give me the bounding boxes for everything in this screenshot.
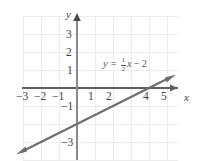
equation-lhs: y (103, 58, 108, 69)
equation-variable: x (127, 58, 132, 69)
fraction-numerator: 1 (121, 57, 127, 64)
x-tick-label-neg2: −2 (34, 91, 46, 103)
x-tick-label-1: 1 (88, 91, 94, 103)
x-axis-label: x (184, 92, 189, 103)
x-axis-arrowhead (170, 85, 178, 92)
y-tick-label-3: 3 (66, 29, 72, 41)
coordinate-graph-figure: y x −3 −2 −1 1 2 4 5 3 2 1 −1 −3 y=12x−2 (0, 0, 200, 161)
fraction-denominator: 2 (121, 66, 127, 73)
x-tick-label-2: 2 (106, 91, 112, 103)
y-axis-arrowhead (73, 13, 81, 21)
equation-label: y=12x−2 (103, 57, 147, 73)
equation-equals: = (111, 58, 117, 69)
y-axis-label: y (66, 9, 71, 20)
y-tick-label-neg1: −1 (61, 101, 73, 113)
x-tick-label-neg3: −3 (16, 91, 28, 103)
line-arrowhead-lower-left (16, 147, 27, 155)
equation-minus: − (134, 58, 140, 69)
x-tick-label-5: 5 (161, 91, 167, 103)
y-tick-label-1: 1 (67, 65, 73, 77)
y-tick-label-2: 2 (66, 47, 72, 59)
graph-canvas (0, 0, 200, 161)
equation-constant: 2 (142, 58, 147, 69)
x-tick-label-4: 4 (143, 91, 149, 103)
equation-fraction: 12 (121, 57, 127, 73)
y-tick-label-neg3: −3 (61, 137, 73, 149)
